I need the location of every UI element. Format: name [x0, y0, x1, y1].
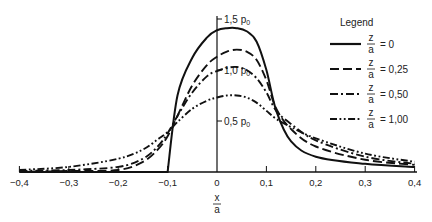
legend-num: z [369, 107, 374, 118]
x-tick-label: 0,3 [359, 177, 372, 188]
y-tick-label: 0,5 p0 [224, 116, 250, 128]
legend-den: a [368, 69, 374, 80]
x-label-num: x [215, 192, 220, 203]
legend-value: = 0,25 [380, 64, 409, 75]
legend-num: z [369, 82, 374, 93]
y-tick-label: 1,5 p0 [224, 14, 250, 26]
legend-num: z [369, 32, 374, 43]
legend-den: a [368, 44, 374, 55]
x-tick-label: 0,1 [260, 177, 273, 188]
legend-value: = 0,50 [380, 89, 409, 100]
legend-den: a [368, 119, 374, 130]
x-tick-label: −0,1 [158, 177, 177, 188]
x-label-den: a [214, 204, 220, 215]
x-tick-label: −0,4 [10, 177, 29, 188]
axes: −0,4−0,3−0,2−0,100,10,20,30,4 1,5 p01,0 … [10, 14, 421, 188]
legend-value: = 0 [380, 39, 395, 50]
x-tick-label: 0,2 [309, 177, 322, 188]
x-tick-label: 0 [214, 177, 219, 188]
legend-value: = 1,00 [380, 114, 409, 125]
legend-den: a [368, 94, 374, 105]
x-tick-label: −0,2 [109, 177, 128, 188]
legend-num: z [369, 57, 374, 68]
x-tick-label: 0,4 [408, 177, 421, 188]
legend-title: Legend [340, 17, 373, 28]
legend: Legendza= 0za= 0,25za= 0,50za= 1,00 [330, 17, 409, 130]
pressure-distribution-chart: −0,4−0,3−0,2−0,100,10,20,30,4 1,5 p01,0 … [0, 0, 432, 222]
x-axis-label: xa [213, 192, 221, 215]
x-tick-label: −0,3 [59, 177, 78, 188]
